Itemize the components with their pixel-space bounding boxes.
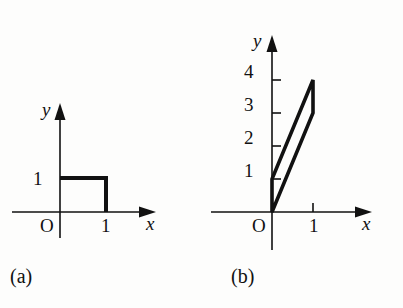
y-axis-arrowhead xyxy=(55,103,66,120)
x-tick-label-1: 1 xyxy=(101,216,111,235)
x-axis-label: x xyxy=(362,214,370,233)
x-tick-label-1: 1 xyxy=(309,216,319,235)
origin-label: O xyxy=(40,216,54,235)
y-axis-arrowhead xyxy=(267,35,278,52)
panel-a-plot xyxy=(0,0,201,308)
y-tick-label-1: 1 xyxy=(33,169,43,188)
x-axis-label: x xyxy=(146,214,154,233)
y-tick-label-3: 3 xyxy=(244,95,254,114)
panel-b-plot xyxy=(201,0,403,308)
y-tick-label-1: 1 xyxy=(244,161,254,180)
panel-caption-a: (a) xyxy=(10,266,32,286)
step-function-curve xyxy=(60,178,106,212)
figure-container: y 1 O 1 x (a) y 4 3 2 1 O xyxy=(0,0,403,308)
origin-label: O xyxy=(252,216,266,235)
panel-a: y 1 O 1 x (a) xyxy=(0,0,201,308)
panel-caption-b: (b) xyxy=(231,266,254,286)
panel-b: y 4 3 2 1 O 1 x (b) xyxy=(201,0,403,308)
y-axis-label: y xyxy=(42,100,50,119)
y-axis-label: y xyxy=(253,31,261,50)
y-tick-label-2: 2 xyxy=(244,128,254,147)
y-tick-label-4: 4 xyxy=(244,62,254,81)
